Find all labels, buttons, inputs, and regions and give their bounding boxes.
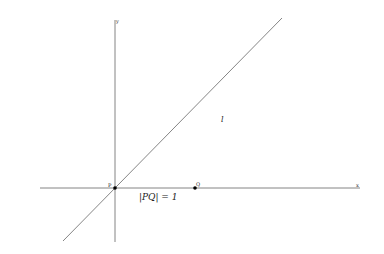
x-axis-label: x bbox=[356, 182, 359, 188]
diagram-canvas bbox=[0, 0, 384, 254]
line-l bbox=[63, 18, 282, 241]
point-q-label: Q bbox=[196, 181, 200, 187]
point-p bbox=[113, 186, 117, 190]
distance-annotation: |PQ| = 1 bbox=[139, 192, 178, 202]
point-p-label: P bbox=[108, 182, 111, 188]
line-l-label: l bbox=[221, 115, 224, 124]
y-axis-label: y bbox=[116, 18, 119, 24]
